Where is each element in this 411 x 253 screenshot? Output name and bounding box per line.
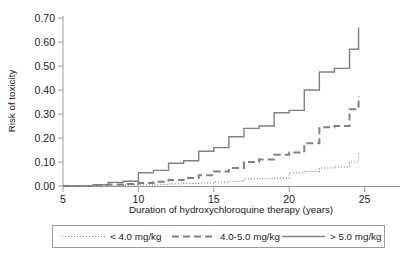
- x-axis-tick-marks: [63, 187, 365, 193]
- risk-of-toxicity-step-chart: 0.000.100.200.300.400.500.600.70 5101520…: [0, 0, 411, 253]
- legend-entries-group: < 4.0 mg/kg4.0-5.0 mg/kg> 5.0 mg/kg: [62, 231, 381, 242]
- y-axis-title: Risk of toxicity: [6, 70, 17, 133]
- y-tick-label: 0.10: [35, 156, 56, 168]
- y-tick-label: 0.70: [35, 12, 56, 24]
- y-tick-label: 0.50: [35, 60, 56, 72]
- y-tick-label: 0.40: [35, 84, 56, 96]
- y-axis-tick-labels: 0.000.100.200.300.400.500.600.70: [35, 12, 56, 192]
- y-tick-label: 0.00: [35, 180, 56, 192]
- x-tick-label: 25: [359, 193, 371, 205]
- x-tick-label: 5: [60, 193, 66, 205]
- legend-label: < 4.0 mg/kg: [110, 231, 161, 242]
- chart-figure: 0.000.100.200.300.400.500.600.70 5101520…: [0, 0, 411, 253]
- series-line-dotted: [63, 152, 359, 186]
- series-line-solid: [63, 28, 359, 186]
- y-tick-label: 0.60: [35, 36, 56, 48]
- legend-label: > 5.0 mg/kg: [330, 231, 381, 242]
- x-axis-title: Duration of hydroxychloroquine therapy (…: [129, 204, 333, 215]
- legend-label: 4.0-5.0 mg/kg: [220, 231, 280, 242]
- series-lines-group: [63, 28, 359, 186]
- y-tick-label: 0.20: [35, 132, 56, 144]
- series-line-dashed: [63, 96, 359, 186]
- y-axis-tick-marks: [58, 18, 63, 186]
- y-tick-label: 0.30: [35, 108, 56, 120]
